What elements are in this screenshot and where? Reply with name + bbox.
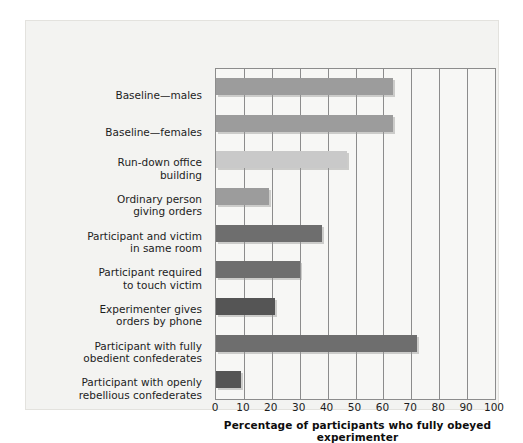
- category-label-line: to touch victim: [51, 279, 202, 292]
- x-tick-label: 40: [320, 401, 333, 413]
- x-tick-label: 10: [236, 401, 249, 413]
- x-tick-label: 80: [432, 401, 445, 413]
- bar-row: [216, 69, 495, 106]
- x-tick-label: 0: [212, 401, 219, 413]
- category-axis-labels: Baseline—malesBaseline—femalesRun-down o…: [51, 68, 210, 398]
- bar: [216, 335, 417, 352]
- bar-row: [216, 106, 495, 143]
- bar: [216, 261, 300, 278]
- bar-row: [216, 252, 495, 289]
- bar-row: [216, 362, 495, 399]
- category-label: Baseline—females: [51, 126, 202, 139]
- category-label-line: Participant with fully: [51, 340, 202, 353]
- bar-series: [216, 69, 495, 399]
- bar-row: [216, 289, 495, 326]
- x-tick-label: 100: [484, 401, 504, 413]
- x-tick-label: 50: [348, 401, 361, 413]
- value-axis-ticks: 0102030405060708090100: [215, 401, 495, 417]
- category-label: Baseline—males: [51, 89, 202, 102]
- category-label-line: Experimenter gives: [51, 303, 202, 316]
- bar: [216, 115, 393, 132]
- category-label-line: building: [51, 169, 202, 182]
- x-tick-label: 70: [404, 401, 417, 413]
- bar: [216, 78, 393, 95]
- category-label-line: Run-down office: [51, 156, 202, 169]
- figure-panel: Baseline—malesBaseline—femalesRun-down o…: [25, 20, 499, 410]
- category-label: Ordinary persongiving orders: [51, 193, 202, 218]
- x-tick-label: 30: [292, 401, 305, 413]
- category-label: Participant and victimin same room: [51, 230, 202, 255]
- category-label-line: Baseline—males: [51, 89, 202, 102]
- bar-row: [216, 179, 495, 216]
- bar: [216, 151, 347, 168]
- category-label-line: orders by phone: [51, 315, 202, 328]
- x-tick-label: 90: [459, 401, 472, 413]
- category-label: Run-down officebuilding: [51, 156, 202, 181]
- bar-row: [216, 216, 495, 253]
- bar: [216, 225, 322, 242]
- x-tick-label: 20: [264, 401, 277, 413]
- category-label-line: Participant required: [51, 266, 202, 279]
- x-axis-title: Percentage of participants who fully obe…: [215, 419, 500, 443]
- category-label-line: Participant with openly: [51, 376, 202, 389]
- category-label: Participant with openlyrebellious confed…: [51, 376, 202, 401]
- x-tick-label: 60: [376, 401, 389, 413]
- bar: [216, 188, 269, 205]
- gridline: [495, 69, 496, 399]
- category-label: Participant with fullyobedient confedera…: [51, 340, 202, 365]
- bar-row: [216, 326, 495, 363]
- category-label-line: Ordinary person: [51, 193, 202, 206]
- bar-row: [216, 142, 495, 179]
- category-label-line: obedient confederates: [51, 352, 202, 365]
- category-label-line: Participant and victim: [51, 230, 202, 243]
- category-label: Experimenter givesorders by phone: [51, 303, 202, 328]
- category-label-line: giving orders: [51, 205, 202, 218]
- bar: [216, 298, 275, 315]
- category-label-line: in same room: [51, 242, 202, 255]
- category-label: Participant requiredto touch victim: [51, 266, 202, 291]
- bar: [216, 371, 241, 388]
- category-label-line: rebellious confederates: [51, 389, 202, 402]
- category-label-line: Baseline—females: [51, 126, 202, 139]
- plot-area: [215, 68, 496, 400]
